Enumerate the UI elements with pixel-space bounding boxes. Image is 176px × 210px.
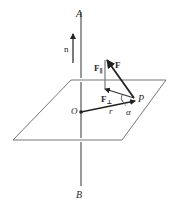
axis-label-A: A (75, 8, 83, 19)
force-parallel-label: F∥ (94, 63, 103, 74)
point-label-P: P (137, 93, 144, 104)
radius-label-r: r (109, 106, 113, 116)
normal-label-n: n (64, 44, 69, 54)
rotation-axis-force-diagram: A B n O P F F∥ F⊥ r α (0, 0, 176, 210)
force-perp-label: F⊥ (101, 94, 113, 105)
force-vector-F (107, 60, 134, 98)
origin-label-O: O (71, 106, 78, 116)
angle-label-alpha: α (126, 107, 131, 117)
origin-dot (79, 110, 83, 114)
axis-label-B: B (76, 189, 82, 200)
force-label-F: F (115, 60, 121, 70)
